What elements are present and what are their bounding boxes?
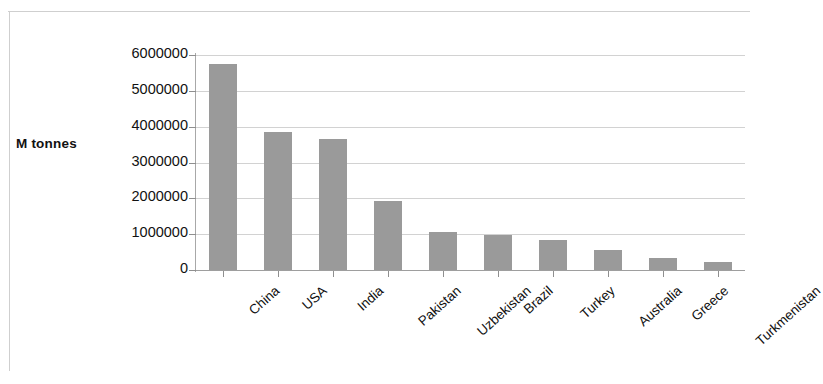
y-tick-label: 3000000 bbox=[96, 153, 188, 169]
x-axis-label-greece: Greece bbox=[688, 283, 731, 324]
bar-turkey bbox=[539, 240, 567, 270]
frame-border-left bbox=[9, 11, 10, 371]
bar-australia bbox=[594, 250, 622, 270]
x-axis-label-australia: Australia bbox=[635, 283, 684, 329]
x-tick-mark bbox=[223, 271, 224, 277]
y-tick-label: 1000000 bbox=[96, 224, 188, 240]
y-tick-mark bbox=[189, 55, 196, 56]
y-tick-mark bbox=[189, 91, 196, 92]
bar-brazil bbox=[484, 235, 512, 270]
y-tick-label: 6000000 bbox=[96, 45, 188, 61]
x-axis-label-usa: USA bbox=[299, 283, 330, 313]
x-tick-mark bbox=[718, 271, 719, 277]
x-axis-label-turkmenistan: Turkmenistan bbox=[752, 283, 822, 349]
bar-pakistan bbox=[374, 201, 402, 270]
x-tick-mark bbox=[498, 271, 499, 277]
y-tick-mark bbox=[189, 234, 196, 235]
x-tick-mark bbox=[333, 271, 334, 277]
bar-china bbox=[209, 64, 237, 270]
x-tick-mark bbox=[553, 271, 554, 277]
bar-greece bbox=[649, 258, 677, 270]
x-axis-label-china: China bbox=[246, 283, 282, 318]
gridline-6000000 bbox=[196, 55, 745, 56]
bar-uzbekistan bbox=[429, 232, 457, 270]
x-axis-label-turkey: Turkey bbox=[577, 283, 617, 321]
bar-india bbox=[319, 139, 347, 271]
x-axis-label-india: India bbox=[355, 283, 387, 314]
y-tick-mark bbox=[189, 163, 196, 164]
y-tick-mark bbox=[189, 270, 196, 271]
y-tick-label: 5000000 bbox=[96, 81, 188, 97]
y-tick-label: 2000000 bbox=[96, 188, 188, 204]
bar-usa bbox=[264, 132, 292, 270]
y-tick-mark bbox=[189, 198, 196, 199]
x-tick-mark bbox=[608, 271, 609, 277]
y-axis-tick-labels: 6000000500000040000003000000200000010000… bbox=[88, 0, 188, 384]
bar-turkmenistan bbox=[704, 262, 732, 270]
y-tick-label: 4000000 bbox=[96, 117, 188, 133]
x-tick-mark bbox=[663, 271, 664, 277]
gridline-5000000 bbox=[196, 91, 745, 92]
y-tick-mark bbox=[189, 127, 196, 128]
y-tick-label: 0 bbox=[96, 260, 188, 276]
x-tick-mark bbox=[388, 271, 389, 277]
plot-area bbox=[196, 55, 745, 270]
x-axis-label-pakistan: Pakistan bbox=[415, 283, 464, 329]
x-tick-mark bbox=[443, 271, 444, 277]
gridline-4000000 bbox=[196, 127, 745, 128]
x-tick-mark bbox=[278, 271, 279, 277]
